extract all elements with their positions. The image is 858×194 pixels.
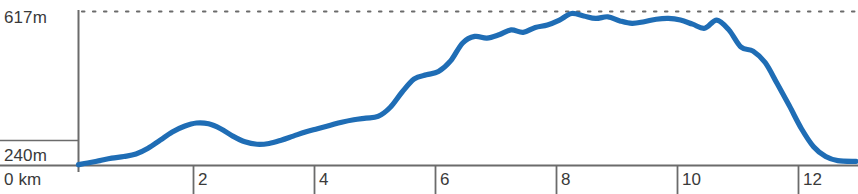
elevation-chart-svg xyxy=(0,0,858,194)
x-axis-tick-label-4: 4 xyxy=(319,170,328,190)
x-axis-origin-label: 0 km xyxy=(4,170,41,190)
y-axis-min-label: 240m xyxy=(4,146,47,166)
x-axis-tick-label-10: 10 xyxy=(682,170,701,190)
x-axis-tick-label-12: 12 xyxy=(803,170,822,190)
x-axis-tick-label-6: 6 xyxy=(440,170,449,190)
x-axis-tick-label-8: 8 xyxy=(561,170,570,190)
x-axis-tick-label-2: 2 xyxy=(198,170,207,190)
y-axis-max-label: 617m xyxy=(4,8,47,28)
x-axis-ticks xyxy=(194,165,799,194)
elevation-profile-chart: 617m 240m 0 km 2 4 6 8 10 12 xyxy=(0,0,858,194)
elevation-curve xyxy=(79,13,856,164)
